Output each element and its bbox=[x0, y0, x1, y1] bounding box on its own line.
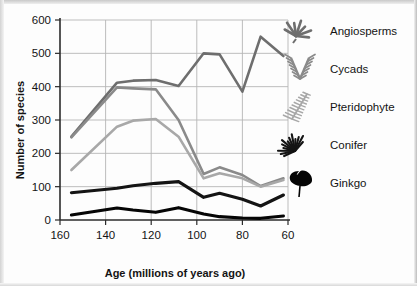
fern-pinna bbox=[299, 97, 304, 99]
legend-item-conifer: Conifer bbox=[278, 134, 367, 156]
fern-frond-icon bbox=[284, 92, 311, 121]
legend-item-angiosperms: Angiosperms bbox=[285, 21, 398, 43]
angiosperm-blade bbox=[296, 36, 309, 37]
y-tick-label: 600 bbox=[32, 14, 51, 26]
ginkgo-blade bbox=[290, 171, 312, 187]
chart-figure: 01002003004005006001601401201008060 Numb… bbox=[0, 0, 417, 286]
fern-pinna bbox=[297, 111, 303, 113]
x-axis-label: Age (millions of years ago) bbox=[105, 267, 246, 279]
fern-pinna bbox=[295, 113, 301, 115]
series-layer bbox=[71, 37, 283, 219]
fern-pinna bbox=[301, 95, 305, 97]
series-line-conifer bbox=[71, 182, 283, 206]
y-tick-label: 500 bbox=[32, 47, 51, 59]
fern-pinna bbox=[292, 105, 298, 108]
series-line-ginkgo bbox=[71, 208, 283, 219]
x-tick-label: 140 bbox=[96, 229, 115, 241]
tick-label-layer: 01002003004005006001601401201008060 bbox=[32, 14, 295, 241]
fern-pinna bbox=[292, 119, 299, 122]
x-tick-label: 160 bbox=[50, 229, 69, 241]
fern-pinna bbox=[300, 105, 305, 107]
fern-pinna bbox=[304, 100, 308, 101]
fern-pinna bbox=[294, 102, 300, 105]
fern-pinna bbox=[288, 110, 295, 113]
y-tick-label: 0 bbox=[45, 214, 51, 226]
x-tick-label: 80 bbox=[236, 229, 249, 241]
legend-item-cycads: Cycads bbox=[285, 55, 369, 80]
angiosperm-leaf-icon bbox=[285, 21, 311, 43]
legend: AngiospermsCycadsPteridophyteConiferGink… bbox=[278, 21, 397, 197]
series-line-pteridophyte bbox=[71, 119, 283, 187]
y-axis-label: Number of species bbox=[14, 81, 26, 179]
legend-item-ginkgo: Ginkgo bbox=[290, 171, 367, 197]
fern-pinna bbox=[286, 113, 294, 117]
fern-pinna bbox=[294, 116, 300, 118]
legend-item-label: Cycads bbox=[330, 63, 369, 75]
y-tick-label: 300 bbox=[32, 114, 51, 126]
fern-pinna bbox=[307, 94, 310, 95]
y-tick-label: 100 bbox=[32, 181, 51, 193]
legend-item-label: Ginkgo bbox=[330, 177, 366, 189]
y-tick-label: 200 bbox=[32, 147, 51, 159]
x-tick-label: 60 bbox=[282, 229, 295, 241]
y-tick-label: 400 bbox=[32, 81, 51, 93]
legend-item-pteridophyte: Pteridophyte bbox=[284, 92, 395, 121]
line-chart: 01002003004005006001601401201008060 Numb… bbox=[0, 0, 417, 286]
x-tick-label: 120 bbox=[142, 229, 161, 241]
x-tick-label: 100 bbox=[187, 229, 206, 241]
fern-pinna bbox=[302, 102, 306, 104]
ginkgo-leaf-icon bbox=[290, 171, 312, 197]
ginkgo-petiole bbox=[299, 186, 300, 197]
conifer-branch-icon bbox=[278, 134, 303, 156]
fern-pinna bbox=[290, 108, 297, 111]
fern-pinna bbox=[297, 100, 302, 102]
legend-item-label: Pteridophyte bbox=[330, 101, 395, 113]
legend-item-label: Angiosperms bbox=[330, 25, 397, 37]
axes-layer bbox=[55, 18, 290, 225]
legend-item-label: Conifer bbox=[330, 139, 367, 151]
cycad-frond-icon bbox=[285, 55, 315, 80]
angiosperm-stem bbox=[293, 39, 296, 43]
fern-pinna bbox=[299, 108, 304, 110]
fern-pinna bbox=[305, 97, 309, 98]
